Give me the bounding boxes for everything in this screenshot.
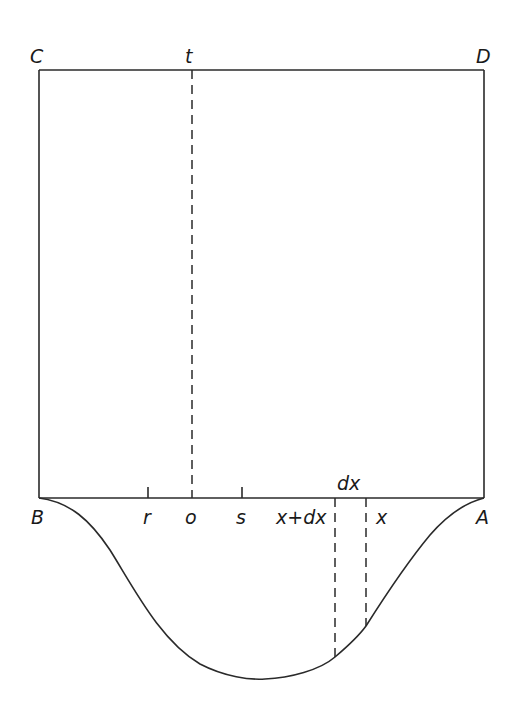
label-o: o bbox=[185, 506, 197, 528]
label-dx: dx bbox=[337, 472, 361, 494]
bell-curve bbox=[39, 498, 484, 679]
label-x: x bbox=[375, 506, 388, 528]
label-s: s bbox=[236, 506, 246, 528]
label-C: C bbox=[30, 45, 44, 67]
diagram-canvas: C t D dx B r o s x+dx x A bbox=[0, 0, 524, 725]
label-t: t bbox=[185, 45, 194, 67]
label-A: A bbox=[474, 506, 489, 528]
label-D: D bbox=[476, 45, 491, 67]
label-x-plus-dx: x+dx bbox=[275, 506, 327, 528]
label-r: r bbox=[143, 506, 152, 528]
label-B: B bbox=[31, 506, 44, 528]
